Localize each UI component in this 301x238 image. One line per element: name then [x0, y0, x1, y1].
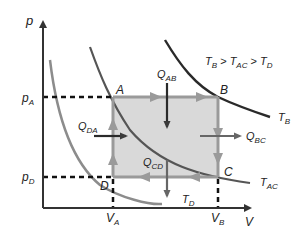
point-c-label: C — [224, 165, 233, 179]
x-axis-label: V — [245, 215, 254, 229]
point-a-label: A — [115, 83, 124, 97]
tick-vb: VB — [211, 211, 225, 227]
heat-label-da: QDA — [78, 120, 98, 135]
point-b-label: B — [220, 83, 228, 97]
tick-pd: pD — [21, 170, 35, 186]
y-axis-label: p — [25, 13, 33, 28]
isotherm-tb-label: TB — [278, 111, 291, 126]
heat-label-ab: QAB — [157, 68, 177, 83]
tick-va: VA — [106, 211, 119, 227]
point-d-label: D — [100, 179, 109, 193]
heat-label-bc: QBC — [246, 130, 266, 145]
temperature-relation: TB > TAC > TD — [205, 55, 273, 70]
isotherm-tac-label: TAC — [260, 176, 278, 191]
pv-diagram: p V pA pD VA VB A B C D TB TAC TD QAB QB… — [0, 0, 301, 238]
isotherm-td-label: TD — [182, 193, 195, 208]
tick-pa: pA — [21, 91, 34, 107]
